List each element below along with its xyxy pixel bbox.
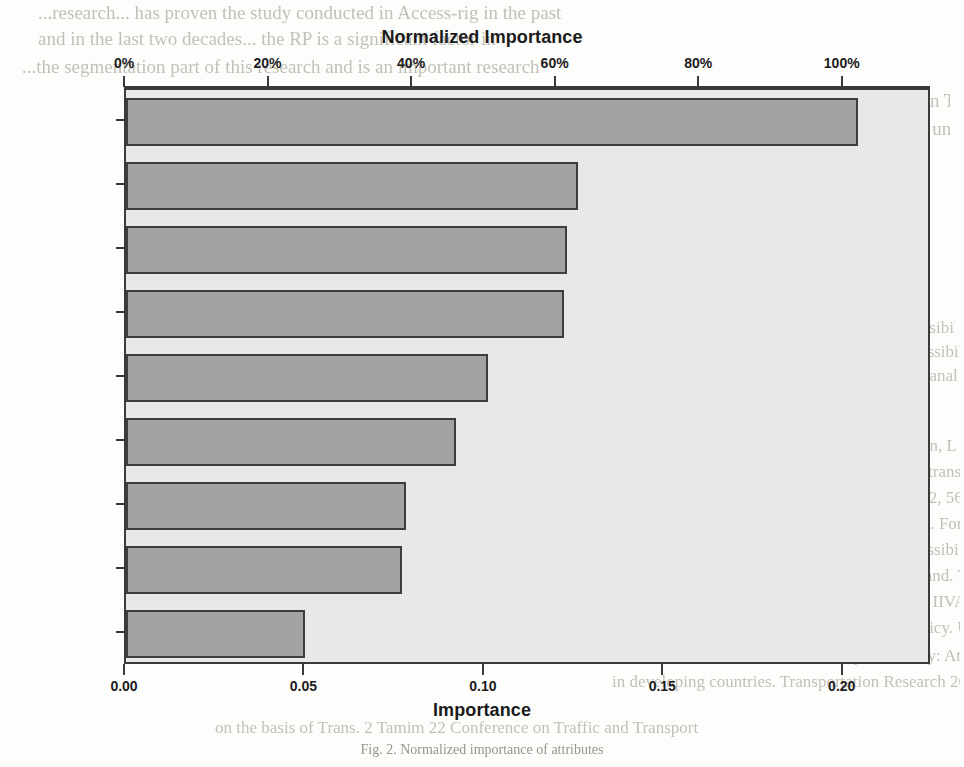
bar-access bbox=[126, 98, 858, 146]
category-axis-tick bbox=[116, 567, 125, 569]
chart-bottom-axis-title: Importance bbox=[0, 700, 964, 721]
bar-vehicle bbox=[126, 162, 578, 210]
category-axis-tick bbox=[116, 183, 125, 185]
figure-caption: Fig. 2. Normalized importance of attribu… bbox=[0, 742, 964, 758]
bar-row bbox=[126, 546, 932, 594]
bar-age bbox=[126, 482, 406, 530]
top-axis-tick bbox=[123, 76, 125, 87]
category-axis-tick bbox=[116, 311, 125, 313]
bar-row bbox=[126, 290, 932, 338]
category-axis-tick bbox=[116, 439, 125, 441]
bar-row bbox=[126, 610, 932, 658]
top-axis-tick bbox=[841, 76, 843, 87]
bottom-axis-tick bbox=[661, 664, 663, 675]
bar-chart-figure: Normalized Importance 0%20%40%60%80%100%… bbox=[0, 0, 964, 767]
category-axis-tick bbox=[116, 119, 125, 121]
bar-occupation bbox=[126, 546, 402, 594]
bar-t-ivtt bbox=[126, 290, 564, 338]
category-axis-tick bbox=[116, 503, 125, 505]
bar-row bbox=[126, 162, 932, 210]
bar-row bbox=[126, 418, 932, 466]
bar-t-des bbox=[126, 226, 567, 274]
category-axis-tick bbox=[116, 631, 125, 633]
top-axis-tick bbox=[554, 76, 556, 87]
plot-area bbox=[124, 88, 930, 664]
bar-row bbox=[126, 482, 932, 530]
bottom-axis-tick bbox=[841, 664, 843, 675]
category-axis-tick bbox=[116, 247, 125, 249]
top-axis-tick-label: 40% bbox=[397, 55, 425, 71]
bottom-axis-tick bbox=[302, 664, 304, 675]
bottom-axis-tick bbox=[123, 664, 125, 675]
bar-income bbox=[126, 418, 456, 466]
top-axis-tick-label: 20% bbox=[254, 55, 282, 71]
bar-row bbox=[126, 354, 932, 402]
bar-gender bbox=[126, 610, 305, 658]
bar-row bbox=[126, 226, 932, 274]
top-axis-tick bbox=[410, 76, 412, 87]
bar-row bbox=[126, 98, 932, 146]
bottom-axis-tick-label: 0.05 bbox=[290, 678, 317, 694]
category-axis-tick bbox=[116, 375, 125, 377]
bottom-axis-tick-label: 0.10 bbox=[469, 678, 496, 694]
bottom-axis-tick-label: 0.15 bbox=[649, 678, 676, 694]
scanned-page: ...research... has proven the study cond… bbox=[0, 0, 964, 767]
top-axis-tick bbox=[267, 76, 269, 87]
bottom-axis-tick-label: 0.20 bbox=[828, 678, 855, 694]
top-axis-tick-label: 100% bbox=[824, 55, 860, 71]
bar-t-wait bbox=[126, 354, 488, 402]
top-axis-tick-label: 80% bbox=[684, 55, 712, 71]
chart-top-axis-title: Normalized Importance bbox=[0, 27, 964, 48]
top-axis-tick-label: 0% bbox=[114, 55, 134, 71]
top-axis-tick bbox=[697, 76, 699, 87]
top-axis-tick-label: 60% bbox=[541, 55, 569, 71]
bottom-axis-tick-label: 0.00 bbox=[110, 678, 137, 694]
bottom-axis-tick bbox=[482, 664, 484, 675]
